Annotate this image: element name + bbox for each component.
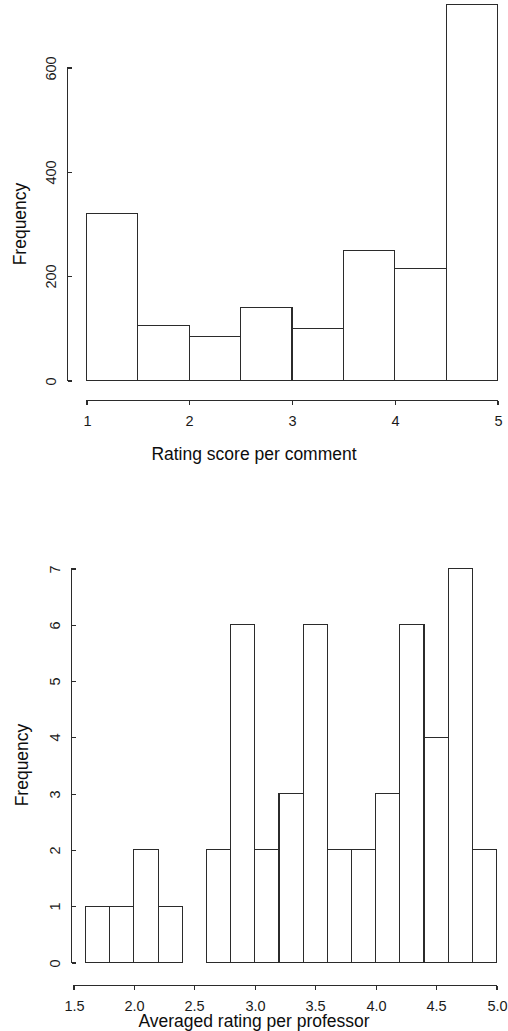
y-tick-label: 7 (47, 565, 63, 573)
y-tick-label: 0 (47, 959, 63, 967)
top-y-tick-labels: 0200400600 (43, 56, 59, 385)
y-tick-label: 600 (43, 56, 59, 80)
bottom-x-tick-marks (75, 986, 498, 990)
y-tick-label: 2 (47, 846, 63, 854)
bottom-y-tick-labels: 01234567 (47, 565, 63, 967)
top-plot-canvas: 0200400600 12345 Rating score per commen… (0, 0, 508, 500)
histogram-averaged-rating-per-professor: 01234567 1.52.02.53.03.54.04.55.0 Averag… (0, 500, 508, 1031)
top-x-tick-labels: 12345 (83, 413, 502, 429)
bottom-plot-canvas: 01234567 1.52.02.53.03.54.04.55.0 Averag… (0, 500, 508, 1031)
x-tick-label: 5.0 (487, 998, 507, 1014)
y-tick-label: 1 (47, 902, 63, 910)
y-tick-label: 200 (43, 264, 59, 288)
y-tick-label: 3 (47, 790, 63, 798)
bottom-y-axis-line (72, 569, 76, 963)
top-histogram-bars (87, 5, 498, 381)
histogram-rating-score-per-comment: 0200400600 12345 Rating score per commen… (0, 0, 508, 500)
x-tick-label: 1.5 (64, 998, 84, 1014)
top-y-tick-marks (68, 69, 72, 382)
x-tick-label: 4 (391, 413, 399, 429)
y-tick-label: 5 (47, 677, 63, 685)
bottom-y-axis-title: Frequency (12, 723, 32, 806)
x-tick-label: 1 (83, 413, 91, 429)
bottom-x-axis-title: Averaged rating per professor (138, 1011, 369, 1031)
top-x-axis-title: Rating score per comment (151, 444, 356, 464)
x-tick-label: 4.5 (426, 998, 446, 1014)
x-tick-label: 2 (185, 413, 193, 429)
top-y-axis-title: Frequency (10, 182, 30, 265)
y-tick-label: 6 (47, 621, 63, 629)
bottom-y-tick-marks (72, 570, 76, 964)
top-y-axis-line (68, 68, 72, 381)
y-tick-label: 0 (43, 377, 59, 385)
x-tick-label: 3 (288, 413, 296, 429)
bottom-histogram-bars (86, 569, 497, 963)
y-tick-label: 400 (43, 160, 59, 184)
y-tick-label: 4 (47, 733, 63, 741)
bottom-x-axis-line (74, 986, 497, 990)
top-x-tick-marks (88, 401, 499, 405)
x-tick-label: 5 (494, 413, 502, 429)
